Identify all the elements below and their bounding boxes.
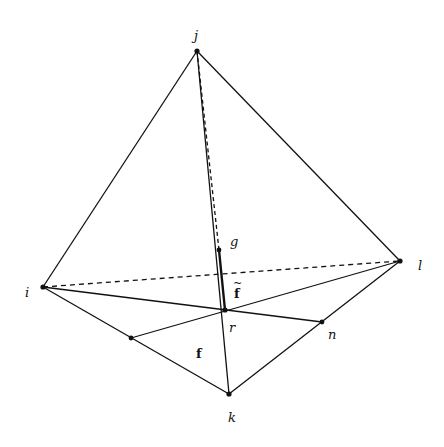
vertex-i [40, 284, 45, 289]
point-m [129, 336, 134, 341]
label-g: g [230, 234, 238, 249]
label-i: i [25, 285, 29, 300]
point-g [217, 248, 222, 253]
segment-i-n [43, 287, 322, 322]
segment-m-l [131, 261, 400, 338]
label-j: j [191, 28, 198, 43]
edge-k-l [229, 261, 400, 394]
edge-i-k [43, 287, 229, 394]
label-l: l [418, 258, 422, 273]
tetrahedron-diagram: j i l k g r n f f ~ [0, 0, 444, 447]
edge-j-l [197, 51, 400, 261]
vertex-k [226, 391, 231, 396]
label-r: r [229, 320, 236, 335]
label-n: n [328, 327, 336, 342]
tilde-mark: ~ [233, 277, 242, 290]
edge-i-j [43, 51, 197, 287]
point-n [320, 320, 325, 325]
vertex-l [397, 258, 402, 263]
point-r [222, 307, 227, 312]
label-k: k [228, 410, 236, 425]
segment-j-g-dashed [197, 51, 219, 250]
vertex-j [194, 48, 199, 53]
label-f: f [196, 346, 203, 361]
edge-j-k [197, 51, 229, 394]
